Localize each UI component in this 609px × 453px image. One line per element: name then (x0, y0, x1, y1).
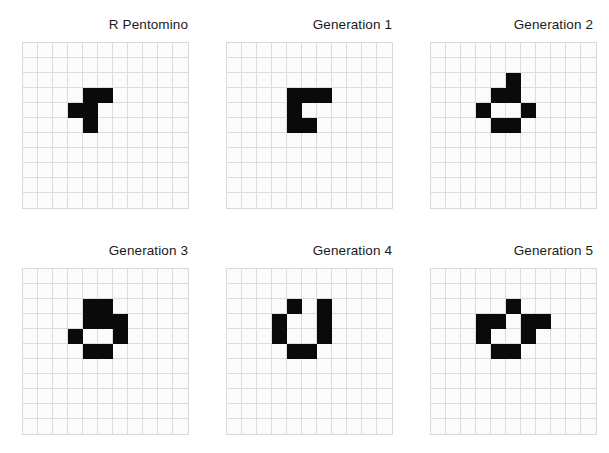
dead-cell[interactable] (446, 329, 461, 344)
dead-cell[interactable] (227, 374, 242, 389)
dead-cell[interactable] (227, 389, 242, 404)
dead-cell[interactable] (461, 404, 476, 419)
dead-cell[interactable] (227, 118, 242, 133)
dead-cell[interactable] (476, 389, 491, 404)
dead-cell[interactable] (113, 389, 128, 404)
dead-cell[interactable] (53, 103, 68, 118)
dead-cell[interactable] (302, 329, 317, 344)
dead-cell[interactable] (83, 419, 98, 434)
dead-cell[interactable] (128, 359, 143, 374)
dead-cell[interactable] (377, 344, 392, 359)
dead-cell[interactable] (431, 374, 446, 389)
dead-cell[interactable] (83, 163, 98, 178)
dead-cell[interactable] (113, 88, 128, 103)
dead-cell[interactable] (53, 133, 68, 148)
dead-cell[interactable] (83, 73, 98, 88)
dead-cell[interactable] (506, 43, 521, 58)
dead-cell[interactable] (23, 148, 38, 163)
dead-cell[interactable] (491, 43, 506, 58)
dead-cell[interactable] (302, 404, 317, 419)
dead-cell[interactable] (257, 163, 272, 178)
dead-cell[interactable] (128, 118, 143, 133)
dead-cell[interactable] (257, 103, 272, 118)
dead-cell[interactable] (446, 344, 461, 359)
dead-cell[interactable] (53, 118, 68, 133)
dead-cell[interactable] (23, 269, 38, 284)
dead-cell[interactable] (521, 359, 536, 374)
dead-cell[interactable] (566, 344, 581, 359)
dead-cell[interactable] (272, 359, 287, 374)
live-cell[interactable] (83, 314, 98, 329)
dead-cell[interactable] (491, 148, 506, 163)
dead-cell[interactable] (521, 374, 536, 389)
dead-cell[interactable] (581, 193, 596, 208)
dead-cell[interactable] (551, 43, 566, 58)
dead-cell[interactable] (227, 344, 242, 359)
dead-cell[interactable] (68, 193, 83, 208)
dead-cell[interactable] (143, 148, 158, 163)
dead-cell[interactable] (461, 314, 476, 329)
live-cell[interactable] (491, 344, 506, 359)
dead-cell[interactable] (377, 314, 392, 329)
dead-cell[interactable] (506, 374, 521, 389)
dead-cell[interactable] (68, 163, 83, 178)
dead-cell[interactable] (173, 73, 188, 88)
dead-cell[interactable] (128, 73, 143, 88)
dead-cell[interactable] (53, 58, 68, 73)
dead-cell[interactable] (98, 419, 113, 434)
dead-cell[interactable] (302, 314, 317, 329)
dead-cell[interactable] (98, 58, 113, 73)
dead-cell[interactable] (347, 163, 362, 178)
dead-cell[interactable] (83, 43, 98, 58)
dead-cell[interactable] (143, 163, 158, 178)
dead-cell[interactable] (431, 88, 446, 103)
dead-cell[interactable] (536, 178, 551, 193)
dead-cell[interactable] (347, 419, 362, 434)
dead-cell[interactable] (446, 269, 461, 284)
dead-cell[interactable] (491, 284, 506, 299)
dead-cell[interactable] (431, 269, 446, 284)
live-cell[interactable] (506, 118, 521, 133)
dead-cell[interactable] (38, 193, 53, 208)
dead-cell[interactable] (23, 359, 38, 374)
dead-cell[interactable] (23, 43, 38, 58)
dead-cell[interactable] (461, 103, 476, 118)
dead-cell[interactable] (257, 374, 272, 389)
life-grid-5[interactable] (430, 268, 597, 435)
live-cell[interactable] (287, 344, 302, 359)
dead-cell[interactable] (377, 299, 392, 314)
dead-cell[interactable] (581, 103, 596, 118)
dead-cell[interactable] (506, 133, 521, 148)
dead-cell[interactable] (227, 404, 242, 419)
dead-cell[interactable] (257, 73, 272, 88)
dead-cell[interactable] (347, 193, 362, 208)
dead-cell[interactable] (173, 284, 188, 299)
dead-cell[interactable] (158, 88, 173, 103)
dead-cell[interactable] (287, 193, 302, 208)
dead-cell[interactable] (68, 374, 83, 389)
dead-cell[interactable] (143, 58, 158, 73)
dead-cell[interactable] (23, 389, 38, 404)
dead-cell[interactable] (332, 374, 347, 389)
dead-cell[interactable] (242, 178, 257, 193)
dead-cell[interactable] (332, 419, 347, 434)
dead-cell[interactable] (158, 58, 173, 73)
dead-cell[interactable] (536, 43, 551, 58)
dead-cell[interactable] (113, 133, 128, 148)
dead-cell[interactable] (68, 88, 83, 103)
live-cell[interactable] (287, 299, 302, 314)
dead-cell[interactable] (377, 88, 392, 103)
dead-cell[interactable] (302, 359, 317, 374)
dead-cell[interactable] (143, 88, 158, 103)
dead-cell[interactable] (113, 284, 128, 299)
dead-cell[interactable] (23, 344, 38, 359)
dead-cell[interactable] (431, 148, 446, 163)
dead-cell[interactable] (566, 43, 581, 58)
dead-cell[interactable] (491, 374, 506, 389)
dead-cell[interactable] (143, 133, 158, 148)
dead-cell[interactable] (317, 193, 332, 208)
dead-cell[interactable] (113, 178, 128, 193)
dead-cell[interactable] (113, 58, 128, 73)
dead-cell[interactable] (302, 163, 317, 178)
dead-cell[interactable] (38, 359, 53, 374)
